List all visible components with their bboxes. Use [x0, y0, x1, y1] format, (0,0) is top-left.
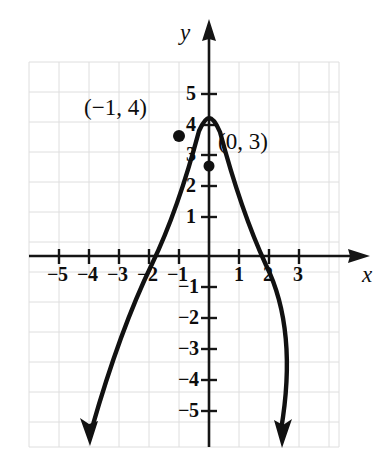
- graph-figure: y x −5 −4 −3 −2 −1 1 2 3 5 4 3 2 1 −1 −2…: [0, 0, 390, 469]
- x-tick-label-neg3: −3: [107, 263, 127, 286]
- y-tick-label-neg3: −3: [178, 337, 198, 360]
- y-axis-label: y: [180, 20, 190, 46]
- y-tick-label-neg5: −5: [178, 399, 198, 422]
- y-tick-label-neg2: −2: [178, 306, 198, 329]
- vertex-point-label: (−1, 4): [84, 95, 147, 121]
- x-tick-label-3: 3: [293, 263, 303, 286]
- x-tick-label-neg2: −2: [137, 263, 157, 286]
- y-axis: [202, 19, 216, 447]
- y-tick-label-1: 1: [186, 205, 196, 228]
- vertex-point: [173, 130, 185, 142]
- y-tick-label-5: 5: [186, 82, 196, 105]
- x-axis: [29, 249, 370, 263]
- y-intercept-point: [204, 161, 215, 172]
- x-tick-label-neg4: −4: [77, 263, 97, 286]
- y-tick-label-neg4: −4: [178, 368, 198, 391]
- y-intercept-point-label: (0, 3): [218, 129, 268, 155]
- x-axis-label: x: [362, 262, 372, 288]
- x-tick-label-1: 1: [234, 263, 244, 286]
- y-tick-label-2: 2: [186, 174, 196, 197]
- x-tick-label-neg5: −5: [47, 263, 67, 286]
- y-tick-label-neg1: −1: [178, 275, 198, 298]
- y-tick-label-3: 3: [186, 143, 196, 166]
- x-tick-label-2: 2: [263, 263, 273, 286]
- y-tick-label-4: 4: [186, 113, 196, 136]
